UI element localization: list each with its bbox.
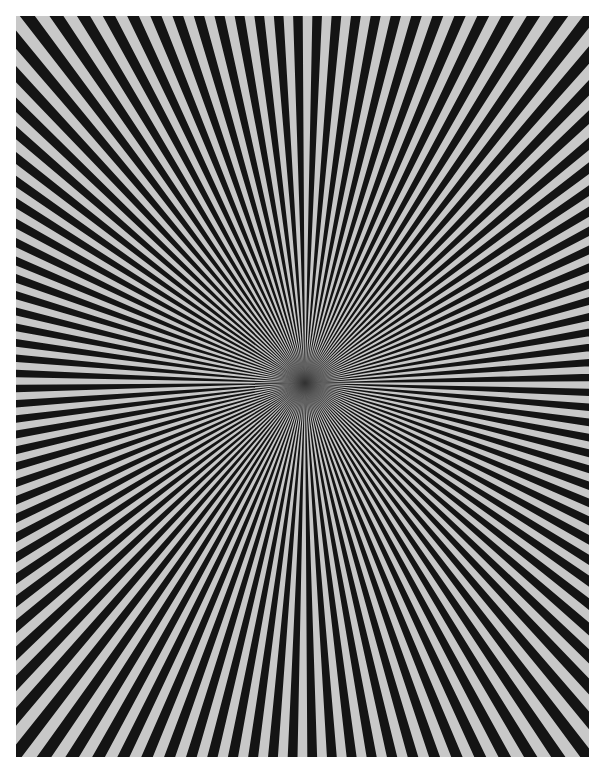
siemens-star-pattern	[16, 16, 589, 757]
radial-wedges	[16, 16, 589, 757]
